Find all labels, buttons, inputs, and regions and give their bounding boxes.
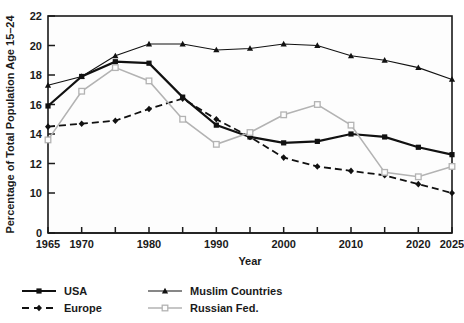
chart-legend: USAMuslim CountriesEuropeRussian Fed. bbox=[22, 285, 282, 314]
data-point-marker bbox=[449, 164, 455, 170]
data-point-marker bbox=[281, 112, 287, 118]
data-point-marker bbox=[315, 139, 320, 144]
data-point-marker bbox=[416, 145, 421, 150]
data-point-marker bbox=[79, 88, 85, 94]
x-tick-label: 1965 bbox=[36, 238, 60, 250]
data-point-marker bbox=[146, 61, 151, 66]
legend-item-europe[interactable]: Europe bbox=[22, 302, 102, 314]
legend-label: Muslim Countries bbox=[190, 285, 282, 297]
y-axis-title: Percentage of Total Population Age 15–24 bbox=[4, 15, 16, 234]
data-point-marker bbox=[416, 174, 422, 180]
data-point-marker bbox=[113, 65, 119, 71]
data-point-marker bbox=[348, 122, 354, 128]
data-point-marker bbox=[348, 131, 353, 136]
data-point-marker bbox=[247, 130, 253, 136]
x-tick-label: 2000 bbox=[271, 238, 295, 250]
data-point-marker bbox=[45, 137, 51, 143]
y-tick-label: 18 bbox=[30, 69, 42, 81]
x-tick-label: 2020 bbox=[406, 238, 430, 250]
x-axis-title: Year bbox=[238, 255, 262, 267]
data-point-marker bbox=[162, 305, 168, 311]
data-point-marker bbox=[214, 123, 219, 128]
legend-item-russian-fed[interactable]: Russian Fed. bbox=[148, 302, 258, 314]
data-point-marker bbox=[382, 170, 388, 176]
y-tick-label: 20 bbox=[30, 40, 42, 52]
data-point-marker bbox=[113, 59, 118, 64]
data-point-marker bbox=[180, 116, 186, 122]
legend-label: Europe bbox=[64, 302, 102, 314]
legend-label: Russian Fed. bbox=[190, 302, 258, 314]
y-tick-label: 16 bbox=[30, 99, 42, 111]
data-point-marker bbox=[45, 103, 50, 108]
y-tick-label: 12 bbox=[30, 158, 42, 170]
legend-label: USA bbox=[64, 285, 87, 297]
data-point-marker bbox=[382, 134, 387, 139]
x-tick-label: 1990 bbox=[204, 238, 228, 250]
y-tick-label: 14 bbox=[30, 128, 43, 140]
data-point-marker bbox=[449, 152, 454, 157]
data-point-marker bbox=[281, 140, 286, 145]
population-age-line-chart: 0101214161820221965197019801990200020102… bbox=[0, 0, 464, 323]
legend-item-usa[interactable]: USA bbox=[22, 285, 87, 297]
x-tick-label: 1980 bbox=[137, 238, 161, 250]
y-tick-label: 10 bbox=[30, 187, 42, 199]
data-point-marker bbox=[214, 142, 220, 148]
data-point-marker bbox=[315, 102, 321, 108]
x-tick-label: 2010 bbox=[339, 238, 363, 250]
y-tick-label: 22 bbox=[30, 10, 42, 22]
legend-item-muslim-countries[interactable]: Muslim Countries bbox=[148, 285, 282, 297]
x-tick-label: 1970 bbox=[69, 238, 93, 250]
data-point-marker bbox=[146, 78, 152, 84]
x-tick-label: 2025 bbox=[440, 238, 464, 250]
data-point-marker bbox=[36, 288, 41, 293]
data-point-marker bbox=[36, 305, 42, 312]
chart-page: 0101214161820221965197019801990200020102… bbox=[0, 0, 464, 323]
